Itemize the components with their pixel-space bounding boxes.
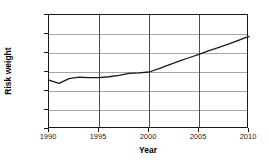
- y-axis-title: Risk weight: [2, 14, 14, 128]
- x-tick-label: 1990: [40, 133, 57, 141]
- x-axis-title: Year: [48, 146, 248, 155]
- x-tick-label: 2010: [240, 133, 257, 141]
- plot-area: [48, 14, 248, 128]
- x-tick-label: 2000: [140, 133, 157, 141]
- chart-figure: Risk weight 020004000600080001000012000 …: [0, 0, 269, 167]
- x-tick-label: 2005: [190, 133, 207, 141]
- risk-weight-line: [49, 15, 249, 129]
- series-layer: [49, 15, 247, 127]
- x-tick-label: 1995: [90, 133, 107, 141]
